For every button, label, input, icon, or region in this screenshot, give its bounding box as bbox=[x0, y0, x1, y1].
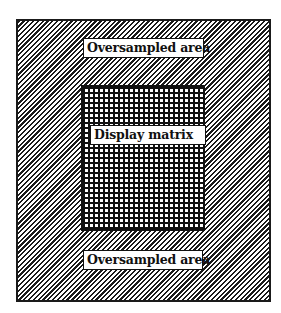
oversampled-area-label-bottom: Oversampled area bbox=[83, 250, 203, 270]
oversampled-area-label-top: Oversampled area bbox=[83, 38, 204, 58]
display-matrix-grid bbox=[81, 85, 205, 231]
display-matrix-label: Display matrix bbox=[90, 125, 206, 145]
